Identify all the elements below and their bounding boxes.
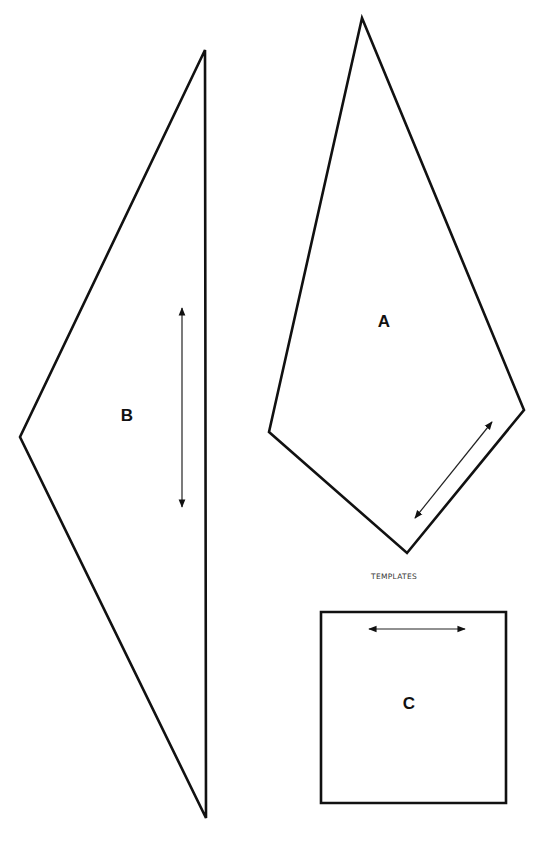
template-c: C	[321, 612, 506, 803]
template-c-label: C	[403, 694, 415, 713]
template-a-label: A	[378, 312, 390, 331]
templates-diagram: B A TEMPLATES C	[0, 0, 541, 843]
template-b-shape	[20, 50, 206, 818]
template-b: B	[20, 50, 206, 818]
diagram-caption: TEMPLATES	[370, 572, 417, 581]
template-a: A	[269, 18, 524, 553]
template-a-shape	[269, 18, 524, 553]
template-b-label: B	[121, 406, 133, 425]
